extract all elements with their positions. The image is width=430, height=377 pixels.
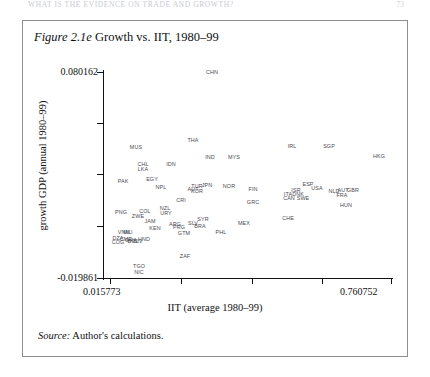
scatter-point-label: THA (187, 137, 198, 143)
scatter-point-label: USA (311, 185, 322, 191)
source-label: Source: (38, 330, 70, 341)
source-note: Source: Author's calculations. (38, 329, 163, 342)
scatter-point-label: SYR (197, 216, 208, 222)
y-tick-3 (97, 226, 103, 227)
scatter-point-label: SWE (297, 195, 310, 201)
scatter-point-label: JPN (202, 182, 212, 188)
scatter-point-label: IDN (166, 161, 176, 167)
scatter-point-label: IND (205, 154, 215, 160)
scatter-point-label: FIN (249, 186, 258, 192)
scatter-point-label: MYS (228, 154, 240, 160)
scatter-point-label: HKG (373, 153, 385, 159)
scatter-point-label: CRI (176, 197, 186, 203)
scatter-point-label: ZWE (132, 213, 144, 219)
scatter-point-label: PHL (216, 229, 227, 235)
x-tick-4 (391, 279, 392, 284)
scatter-point-label: NIC (134, 269, 144, 275)
running-head-text: WHAT IS THE EVIDENCE ON TRADE AND GROWTH… (28, 0, 234, 7)
scatter-point-label: CHN (206, 69, 218, 75)
scatter-point-label: SGP (323, 143, 335, 149)
running-head: WHAT IS THE EVIDENCE ON TRADE AND GROWTH… (28, 0, 402, 7)
x-axis-min-label: 0.015773 (83, 286, 121, 298)
scatter-point-label: GRC (247, 199, 259, 205)
x-axis-max-label: 0.760752 (340, 286, 378, 298)
scatter-point-label: MUS (130, 144, 142, 150)
scatter-point-label: MEX (238, 220, 250, 226)
scatter-point-label: BRA (194, 223, 205, 229)
scatter-point-label: URY (160, 210, 172, 216)
x-axis-title: IIT (average 1980–99) (0, 302, 430, 313)
scatter-point-label: HUN (340, 202, 352, 208)
figure-number: Figure 2.1e (34, 30, 92, 44)
y-tick-2 (97, 174, 103, 175)
figure-title: Figure 2.1e Growth vs. IIT, 1980–99 (34, 30, 219, 45)
scatter-point-label: PNG (115, 209, 127, 215)
y-axis-line (103, 70, 104, 280)
scatter-point-label: GBR (347, 187, 359, 193)
x-tick-0 (110, 279, 111, 284)
x-tick-3 (322, 279, 323, 284)
scatter-point-label: KEN (149, 225, 160, 231)
scatter-point-label: EGY (146, 176, 158, 182)
y-axis-min-label: -0.019861 (57, 272, 98, 284)
page-folio: 73 (397, 0, 405, 9)
y-tick-1 (97, 123, 103, 124)
x-tick-2 (252, 279, 253, 284)
scatter-point-label: NPL (156, 184, 167, 190)
scatter-point-label: GTM (178, 230, 190, 236)
x-tick-1 (181, 279, 182, 284)
figure-title-text: Growth vs. IIT, 1980–99 (95, 30, 219, 44)
scatter-point-label: CAN (283, 195, 295, 201)
scatter-point-label: JAM (144, 218, 155, 224)
scatter-point-label: IRL (288, 143, 297, 149)
source-text: Author's calculations. (72, 330, 163, 341)
scatter-point-label: LKA (138, 166, 149, 172)
scatter-point-label: CHE (282, 215, 294, 221)
scatter-point-label: PAK (118, 178, 129, 184)
scatter-point-label: CIV (133, 238, 142, 244)
scatter-point-label: KOR (191, 188, 203, 194)
x-axis-line (101, 278, 393, 279)
scatter-point-label: MLI (123, 229, 132, 235)
scatter-point-label: ZAF (180, 253, 190, 259)
y-axis-max-label: 0.080162 (61, 66, 99, 78)
scatter-point-label: NOR (223, 183, 235, 189)
y-axis-title: growth GDP (annual 1980–99) (37, 66, 48, 266)
scatter-point-label: FRA (336, 192, 347, 198)
